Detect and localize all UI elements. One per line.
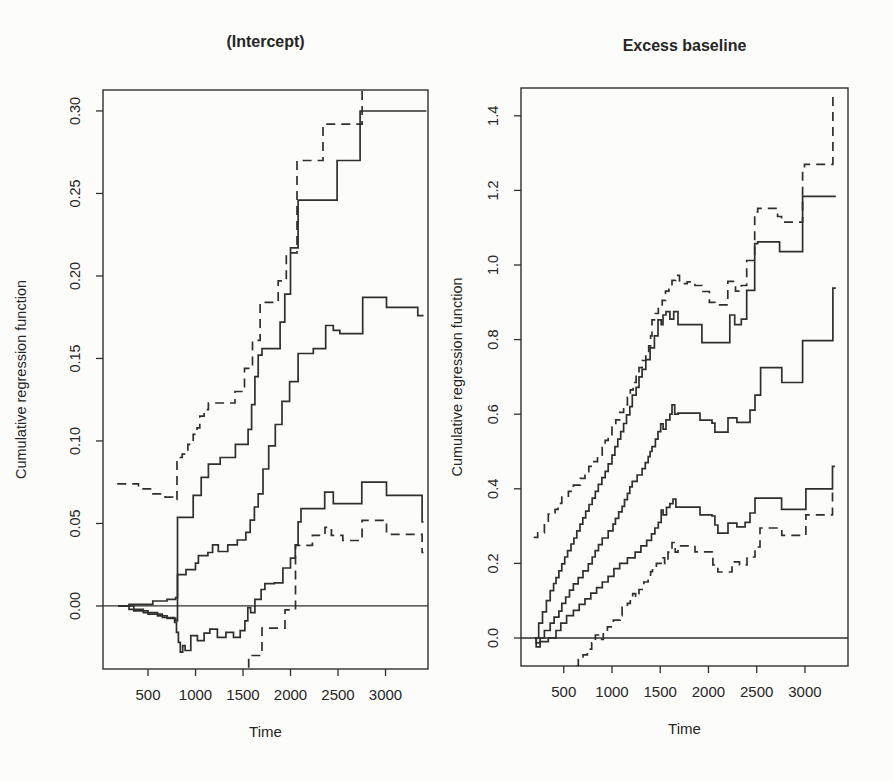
excess-baseline-plot: Excess baseline50010001500200025003000Ti… [446, 0, 893, 781]
plot-title: (Intercept) [226, 33, 304, 50]
x-tick-label: 1000 [179, 686, 212, 703]
x-tick-label: 2500 [321, 686, 354, 703]
x-tick-label: 2000 [274, 686, 307, 703]
y-tick-label: 1.2 [485, 180, 501, 200]
x-axis-label: Time [668, 720, 701, 737]
series-upper-ci-solid [118, 111, 426, 606]
x-tick-label: 2500 [740, 683, 773, 700]
y-tick-label: 0.20 [67, 262, 83, 290]
x-tick-label: 1500 [226, 686, 259, 703]
x-tick-label: 3000 [788, 683, 821, 700]
y-tick-label: 0.4 [485, 479, 501, 499]
x-axis: 50010001500200025003000 [136, 669, 403, 703]
plot-box [103, 90, 428, 669]
series-upper-ci-solid [535, 196, 836, 638]
x-axis-label: Time [249, 723, 282, 740]
plot-box [521, 88, 848, 666]
x-tick-label: 500 [551, 683, 576, 700]
x-tick-label: 1500 [644, 683, 677, 700]
y-tick-label: 0.25 [67, 179, 83, 207]
series-lower-confidence-band-dashed [245, 520, 424, 678]
y-tick-label: 0.10 [67, 427, 83, 455]
y-tick-label: 1.0 [485, 255, 501, 275]
y-tick-label: 0.8 [485, 330, 501, 350]
x-tick-label: 3000 [369, 686, 402, 703]
y-tick-label: 1.4 [485, 106, 501, 126]
x-tick-label: 2000 [692, 683, 725, 700]
y-tick-label: 0.6 [485, 404, 501, 424]
y-tick-label: 0.05 [67, 509, 83, 537]
series-lower-ci-solid [118, 482, 423, 652]
y-axis-label: Cumulative regression function [13, 280, 29, 479]
y-tick-label: 0.0 [485, 628, 501, 648]
x-axis: 50010001500200025003000 [551, 666, 821, 700]
series-upper-confidence-band-dashed [534, 95, 836, 537]
series-estimate-solid [535, 288, 836, 643]
y-axis: 0.000.050.100.150.200.250.30 [67, 97, 103, 620]
plot-title: Excess baseline [623, 37, 747, 54]
series-estimate-solid [118, 297, 423, 620]
figure-page: (Intercept)50010001500200025003000Time0.… [0, 0, 893, 781]
y-tick-label: 0.2 [485, 553, 501, 573]
y-tick-label: 0.15 [67, 344, 83, 372]
y-axis-label: Cumulative regression function [449, 277, 465, 476]
series-upper-confidence-band-dashed [117, 89, 364, 500]
x-tick-label: 1000 [595, 683, 628, 700]
y-tick-label: 0.00 [67, 592, 83, 620]
intercept-plot: (Intercept)50010001500200025003000Time0.… [0, 0, 446, 781]
series-lower-ci-solid [535, 466, 835, 647]
x-tick-label: 500 [136, 686, 161, 703]
y-axis: 0.00.20.40.60.81.01.21.4 [485, 106, 521, 648]
y-tick-label: 0.30 [67, 97, 83, 125]
